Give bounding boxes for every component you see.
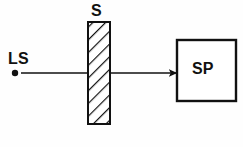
sample-label: S	[91, 2, 102, 20]
optics-diagram: LS S SP	[0, 0, 243, 147]
spectrometer-label: SP	[192, 60, 214, 78]
sample-slab	[88, 22, 110, 124]
sample-slab-fill	[88, 22, 110, 124]
light-source-label: LS	[8, 50, 29, 68]
light-source-point	[12, 70, 18, 76]
